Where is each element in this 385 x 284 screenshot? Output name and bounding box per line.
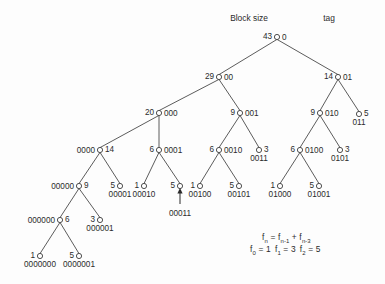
node-tag: 0011 bbox=[250, 154, 268, 163]
tree-node[interactable]: 900000 bbox=[51, 181, 89, 191]
tree-node[interactable]: 5011 bbox=[352, 109, 369, 127]
tree-node[interactable]: 500001 bbox=[109, 181, 132, 199]
node-block-size: 14 bbox=[324, 72, 334, 81]
tree-edge bbox=[219, 152, 239, 183]
node-block-size: 1 bbox=[30, 251, 35, 260]
tree-node[interactable]: 101000 bbox=[269, 181, 292, 199]
node-tag: 00101 bbox=[228, 190, 251, 199]
tree-edge bbox=[277, 39, 338, 74]
node-circle[interactable] bbox=[297, 147, 302, 152]
tree-node[interactable]: 3000001 bbox=[86, 215, 114, 233]
node-circle[interactable] bbox=[274, 34, 279, 39]
pointer-arrow-head bbox=[177, 188, 182, 193]
node-circle[interactable] bbox=[316, 183, 321, 188]
tree-edge bbox=[159, 152, 180, 183]
formula-plus: + f bbox=[289, 232, 302, 242]
node-circle[interactable] bbox=[97, 147, 102, 152]
column-headers: Block size tag bbox=[230, 13, 335, 23]
tree-node[interactable]: 500101 bbox=[228, 181, 251, 199]
tree-node[interactable]: 100010 bbox=[133, 181, 156, 199]
formula-sub-n-minus-1: n-1 bbox=[281, 238, 290, 244]
node-circle[interactable] bbox=[156, 110, 161, 115]
node-tag: 0100 bbox=[305, 146, 324, 155]
node-circle[interactable] bbox=[37, 253, 42, 258]
node-circle[interactable] bbox=[335, 74, 340, 79]
node-block-size: 5 bbox=[364, 109, 369, 118]
node-tag: 00011 bbox=[169, 209, 192, 218]
node-circle[interactable] bbox=[317, 110, 322, 115]
tree-node[interactable]: 30101 bbox=[331, 145, 350, 163]
node-tag: 01001 bbox=[308, 190, 331, 199]
tag-header-label: tag bbox=[323, 13, 335, 23]
tree-edge bbox=[300, 152, 319, 183]
node-circle[interactable] bbox=[356, 111, 361, 116]
node-tag: 0000001 bbox=[63, 260, 95, 269]
node-block-size: 20 bbox=[145, 108, 155, 117]
node-circle[interactable] bbox=[177, 183, 182, 188]
tree-node[interactable]: 9001 bbox=[230, 108, 259, 118]
tree-edge bbox=[320, 115, 340, 147]
tree-node[interactable]: 60100 bbox=[290, 145, 323, 155]
node-block-size: 6 bbox=[65, 215, 70, 224]
tree-edge bbox=[60, 188, 79, 217]
node-circle[interactable] bbox=[117, 183, 122, 188]
node-circle[interactable] bbox=[216, 74, 221, 79]
tree-node[interactable]: 100100 bbox=[189, 181, 212, 199]
node-block-size: 43 bbox=[263, 32, 273, 41]
node-circle[interactable] bbox=[216, 147, 221, 152]
tree-diagram: Block size tag 4302900140120000900190105… bbox=[0, 0, 385, 284]
node-circle[interactable] bbox=[277, 183, 282, 188]
node-block-size: 6 bbox=[209, 145, 214, 154]
node-tag: 0 bbox=[282, 33, 287, 42]
tree-edge bbox=[219, 39, 277, 74]
base-cases-formula-line: f0 = 1f1 = 3f2 = 5 bbox=[250, 244, 321, 256]
node-tag: 000 bbox=[164, 109, 178, 118]
node-circle[interactable] bbox=[97, 217, 102, 222]
formula-f2-value: = 5 bbox=[306, 244, 321, 254]
node-block-size: 3 bbox=[90, 215, 95, 224]
tree-node[interactable]: 10000000 bbox=[24, 251, 56, 269]
node-circle[interactable] bbox=[237, 110, 242, 115]
tree-node[interactable]: 60010 bbox=[209, 145, 242, 155]
tree-edge bbox=[100, 152, 120, 183]
formula-f0-value: = 1 bbox=[256, 244, 271, 254]
tree-node[interactable]: 60001 bbox=[149, 145, 182, 155]
tree-edge bbox=[338, 79, 359, 111]
node-tag: 00100 bbox=[189, 190, 212, 199]
node-tag: 00010 bbox=[133, 190, 156, 199]
tree-node[interactable]: 140000 bbox=[77, 145, 115, 155]
tree-node[interactable]: 9010 bbox=[310, 108, 339, 118]
node-block-size: 1 bbox=[270, 181, 275, 190]
node-circle[interactable] bbox=[141, 183, 146, 188]
tree-edge bbox=[300, 115, 320, 147]
node-circle[interactable] bbox=[76, 183, 81, 188]
node-circle[interactable] bbox=[156, 147, 161, 152]
tree-edge bbox=[144, 152, 159, 183]
node-circle[interactable] bbox=[337, 147, 342, 152]
tree-edge bbox=[320, 79, 338, 110]
node-block-size: 9 bbox=[310, 108, 315, 117]
node-block-size: 6 bbox=[290, 145, 295, 154]
tree-edge bbox=[79, 188, 100, 217]
node-circle[interactable] bbox=[236, 183, 241, 188]
node-circle[interactable] bbox=[256, 147, 261, 152]
node-tag: 00 bbox=[224, 73, 234, 82]
node-block-size: 5 bbox=[309, 181, 314, 190]
tree-node[interactable]: 30011 bbox=[250, 145, 269, 163]
node-circle[interactable] bbox=[57, 217, 62, 222]
node-block-size: 5 bbox=[229, 181, 234, 190]
node-circle[interactable] bbox=[197, 183, 202, 188]
tree-nodes: 4302900140120000900190105011140000600016… bbox=[24, 32, 369, 269]
tree-edge bbox=[219, 115, 240, 147]
tree-node[interactable]: 501001 bbox=[308, 181, 331, 199]
tree-node[interactable]: 50000001 bbox=[63, 251, 95, 269]
node-tag: 00000 bbox=[51, 182, 74, 191]
recurrence-formula-line: fn = fn-1 + fn-3 bbox=[262, 232, 311, 244]
tree-node[interactable]: 6000000 bbox=[28, 215, 70, 225]
node-circle[interactable] bbox=[76, 253, 81, 258]
node-block-size: 3 bbox=[264, 145, 269, 154]
pointer-annotation bbox=[177, 188, 182, 204]
node-tag: 0001 bbox=[164, 146, 183, 155]
node-tag: 0000000 bbox=[24, 260, 56, 269]
node-block-size: 3 bbox=[345, 145, 350, 154]
